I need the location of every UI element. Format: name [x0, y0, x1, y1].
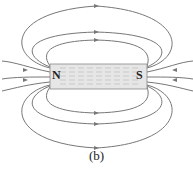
field-lines-main	[0, 0, 193, 172]
north-pole-label: N	[52, 68, 61, 83]
figure-caption: (b)	[0, 148, 193, 164]
south-pole-label: S	[136, 68, 143, 83]
magnet-field-diagram: N S (b)	[0, 0, 193, 172]
